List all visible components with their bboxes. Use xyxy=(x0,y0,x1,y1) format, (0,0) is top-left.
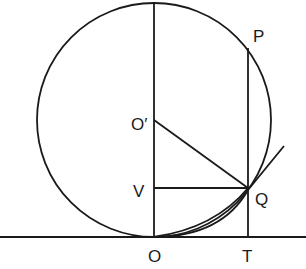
label-P: P xyxy=(253,27,264,46)
label-O: O xyxy=(148,247,161,266)
radius-O-prime-Q xyxy=(154,120,248,188)
label-T: T xyxy=(242,247,252,266)
label-V: V xyxy=(133,182,145,201)
cycloid-diagram: P O′ V Q O T xyxy=(0,0,306,269)
label-Q: Q xyxy=(255,190,268,209)
label-O-prime: O′ xyxy=(131,115,147,134)
